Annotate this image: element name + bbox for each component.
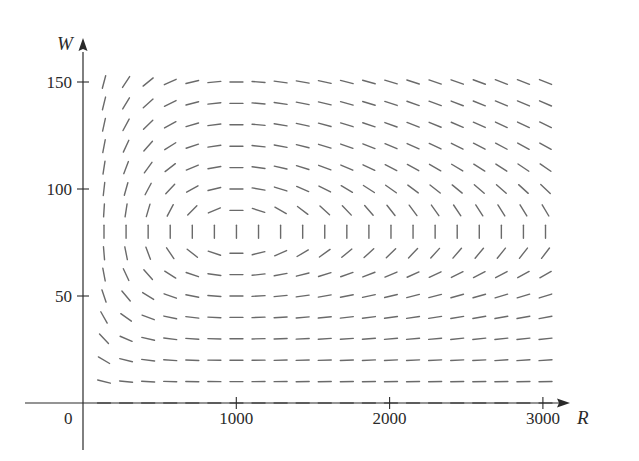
slope-segment bbox=[341, 144, 353, 148]
slope-segment bbox=[409, 205, 417, 215]
slope-segment bbox=[474, 185, 484, 193]
slope-segment bbox=[208, 145, 221, 147]
slope-segment bbox=[451, 316, 464, 318]
slope-segment bbox=[252, 208, 264, 212]
slope-segment bbox=[407, 294, 420, 297]
slope-segment bbox=[451, 360, 464, 361]
slope-segment bbox=[319, 165, 331, 170]
slope-segment bbox=[142, 359, 155, 361]
slope-segment bbox=[103, 183, 104, 196]
slope-segment bbox=[296, 166, 308, 170]
slope-segment bbox=[363, 102, 375, 106]
slope-segment bbox=[103, 161, 105, 174]
slope-segment bbox=[451, 338, 464, 339]
origin-label: 0 bbox=[64, 409, 73, 428]
slope-segment bbox=[143, 78, 153, 86]
slope-segment bbox=[208, 251, 220, 255]
slope-segment bbox=[252, 167, 265, 169]
slope-segment bbox=[364, 249, 374, 258]
slope-segment bbox=[186, 123, 198, 127]
slope-segment bbox=[165, 271, 176, 278]
slope-segment bbox=[539, 80, 551, 85]
slope-segment bbox=[164, 294, 176, 298]
x-axis-title: R bbox=[576, 407, 589, 428]
slope-segment bbox=[318, 317, 331, 318]
slope-segment bbox=[518, 122, 530, 128]
slope-segment bbox=[123, 77, 130, 88]
slope-segment bbox=[319, 144, 331, 148]
slope-segment bbox=[430, 164, 441, 171]
slope-segment bbox=[274, 102, 287, 104]
slope-segment bbox=[340, 360, 353, 361]
slope-segment bbox=[363, 80, 376, 83]
slope-segment bbox=[496, 272, 507, 278]
slope-segment bbox=[298, 206, 308, 214]
y-axis-arrow-icon bbox=[79, 38, 88, 51]
slope-segment bbox=[475, 248, 483, 258]
slope-segment bbox=[208, 167, 221, 169]
slope-segment bbox=[296, 81, 309, 83]
slope-segment bbox=[186, 165, 198, 170]
slope-segment bbox=[142, 381, 155, 382]
slope-segment bbox=[362, 317, 375, 319]
slope-segment bbox=[318, 123, 331, 126]
slope-segment bbox=[275, 207, 286, 213]
slope-segment bbox=[341, 102, 354, 105]
x-tick-label: 3000 bbox=[526, 409, 560, 428]
slope-segment bbox=[186, 80, 199, 83]
slope-segment bbox=[542, 248, 550, 258]
slope-segment bbox=[252, 296, 265, 297]
direction-field-chart: 100020003000 50100150 R W 0 bbox=[0, 0, 639, 461]
slope-segment bbox=[495, 80, 507, 85]
slope-segment bbox=[363, 272, 375, 277]
slope-segment bbox=[208, 188, 221, 191]
slope-segment bbox=[496, 185, 506, 194]
slope-segment bbox=[385, 80, 397, 84]
slope-segment bbox=[518, 164, 529, 171]
slope-segment bbox=[429, 80, 441, 84]
slope-segment bbox=[340, 317, 353, 319]
slope-segment bbox=[274, 145, 287, 147]
slope-segment bbox=[520, 205, 527, 216]
slope-segment bbox=[186, 317, 199, 318]
slope-segment bbox=[540, 164, 551, 171]
slope-segment bbox=[102, 76, 105, 89]
slope-segment bbox=[100, 334, 109, 343]
slope-segment bbox=[518, 143, 529, 149]
slope-segment bbox=[164, 360, 177, 361]
slope-segment bbox=[186, 295, 199, 297]
slope-segment bbox=[164, 79, 176, 84]
slope-segment bbox=[167, 205, 173, 217]
slope-segment bbox=[385, 165, 397, 171]
slope-segment bbox=[496, 164, 507, 171]
slope-segment bbox=[495, 101, 507, 106]
slope-segment bbox=[451, 294, 464, 297]
slope-segment bbox=[386, 249, 395, 258]
slope-segment bbox=[252, 82, 265, 83]
slope-segment bbox=[143, 293, 154, 300]
slope-segment bbox=[142, 337, 155, 340]
slope-segment bbox=[495, 294, 507, 298]
slope-segment bbox=[474, 143, 486, 149]
slope-segment bbox=[541, 185, 551, 194]
slope-segment bbox=[362, 338, 375, 339]
slope-segment bbox=[120, 359, 133, 362]
slope-segment bbox=[274, 81, 287, 83]
slope-segment bbox=[102, 97, 105, 110]
slope-segment bbox=[473, 101, 485, 106]
slope-segment bbox=[451, 80, 463, 84]
slope-segment bbox=[167, 248, 174, 259]
slope-segment bbox=[252, 274, 265, 275]
slope-segment bbox=[341, 123, 353, 127]
slope-segment bbox=[430, 185, 440, 193]
slope-segments bbox=[98, 76, 553, 403]
slope-segment bbox=[451, 122, 463, 127]
slope-segment bbox=[495, 360, 508, 361]
slope-segment bbox=[125, 247, 128, 260]
slope-segment bbox=[124, 183, 128, 196]
slope-segment bbox=[296, 273, 309, 276]
slope-segment bbox=[429, 272, 441, 278]
slope-segment bbox=[208, 124, 221, 126]
slope-segment bbox=[540, 271, 551, 277]
slope-segment bbox=[165, 122, 176, 128]
